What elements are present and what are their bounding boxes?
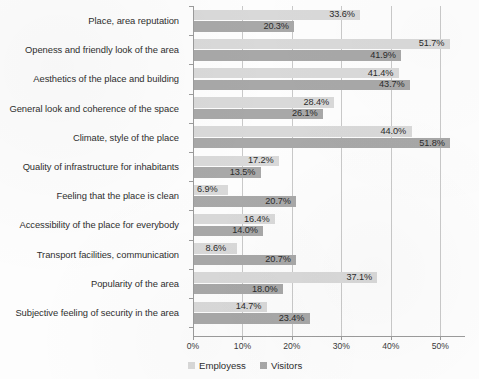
category-label: Transport facilities, communication <box>0 240 186 269</box>
bar-value-label: 51.8% <box>419 138 445 148</box>
bar-value-label: 28.4% <box>303 97 329 107</box>
legend-swatch-icon <box>260 362 267 369</box>
value-tick-label: 0% <box>187 341 199 351</box>
bar-value-label: 17.2% <box>248 155 274 165</box>
category-label: Openess and friendly look of the area <box>0 35 186 64</box>
bar-value-label: 16.4% <box>244 214 270 224</box>
value-tick-label: 40% <box>382 341 399 351</box>
horizontal-bar-chart: Place, area reputationOpeness and friend… <box>0 0 479 379</box>
category-label: Quality of infrastructure for inhabitant… <box>0 152 186 181</box>
bar-value-label: 18.0% <box>252 284 278 294</box>
bar-group: 17.2%13.5% <box>194 152 465 181</box>
category-label: General look and coherence of the space <box>0 94 186 123</box>
legend-item-employess[interactable]: Employess <box>188 360 246 371</box>
category-tick <box>189 35 193 36</box>
legend-item-visitors[interactable]: Visitors <box>260 360 302 371</box>
bar-visitors <box>194 138 450 148</box>
bar-group: 41.4%43.7% <box>194 64 465 93</box>
category-tick <box>189 327 193 328</box>
value-tick <box>292 336 293 340</box>
bar-group: 37.1%18.0% <box>194 269 465 298</box>
value-tick <box>242 336 243 340</box>
value-tick <box>341 336 342 340</box>
category-tick <box>189 298 193 299</box>
category-tick <box>189 94 193 95</box>
bar-value-label: 41.9% <box>370 50 396 60</box>
bar-group: 14.7%23.4% <box>194 298 465 327</box>
value-tick-label: 30% <box>333 341 350 351</box>
bar-employess <box>194 126 412 136</box>
bar-value-label: 51.7% <box>419 38 445 48</box>
category-label: Popularity of the area <box>0 269 186 298</box>
chart-legend: EmployessVisitors <box>188 360 302 371</box>
category-tick <box>189 6 193 7</box>
category-label: Place, area reputation <box>0 6 186 35</box>
legend-label: Visitors <box>271 360 302 371</box>
bar-value-label: 14.0% <box>232 225 258 235</box>
value-tick-label: 10% <box>234 341 251 351</box>
category-tick <box>189 64 193 65</box>
category-label: Aesthetics of the place and building <box>0 64 186 93</box>
bar-value-label: 26.1% <box>292 108 318 118</box>
value-tick <box>193 336 194 340</box>
bar-value-label: 6.9% <box>197 184 218 194</box>
bar-value-label: 20.3% <box>263 21 289 31</box>
category-tick <box>189 152 193 153</box>
value-tick-label: 50% <box>432 341 449 351</box>
category-label: Subjective feeling of security in the ar… <box>0 298 186 327</box>
bar-group: 6.9%20.7% <box>194 181 465 210</box>
bar-employess <box>194 39 450 49</box>
value-axis-line <box>193 336 465 337</box>
bar-group: 16.4%14.0% <box>194 210 465 239</box>
bar-visitors <box>194 80 410 90</box>
bar-value-label: 13.5% <box>230 167 256 177</box>
bar-value-label: 20.7% <box>265 196 291 206</box>
category-tick <box>189 123 193 124</box>
bar-value-label: 8.6% <box>206 243 227 253</box>
bar-value-label: 41.4% <box>368 68 394 78</box>
category-label: Accessibility of the place for everybody <box>0 210 186 239</box>
category-tick <box>189 181 193 182</box>
bar-value-label: 20.7% <box>265 254 291 264</box>
category-tick <box>189 269 193 270</box>
value-tick-label: 20% <box>283 341 300 351</box>
bar-value-label: 43.7% <box>379 79 405 89</box>
bar-group: 44.0%51.8% <box>194 123 465 152</box>
bar-value-label: 33.6% <box>329 9 355 19</box>
category-axis-labels: Place, area reputationOpeness and friend… <box>0 6 186 327</box>
bar-value-label: 14.7% <box>236 301 262 311</box>
legend-swatch-icon <box>188 362 195 369</box>
bar-group: 51.7%41.9% <box>194 35 465 64</box>
bar-group: 8.6%20.7% <box>194 240 465 269</box>
bar-value-label: 37.1% <box>346 272 372 282</box>
bar-value-label: 44.0% <box>381 126 407 136</box>
value-tick <box>391 336 392 340</box>
value-axis: 0%10%20%30%40%50% <box>193 336 465 354</box>
value-tick <box>440 336 441 340</box>
bar-value-label: 23.4% <box>279 313 305 323</box>
category-tick <box>189 210 193 211</box>
category-label: Climate, style of the place <box>0 123 186 152</box>
plot-area: 33.6%20.3%51.7%41.9%41.4%43.7%28.4%26.1%… <box>193 6 465 336</box>
bar-group: 28.4%26.1% <box>194 94 465 123</box>
legend-label: Employess <box>199 360 246 371</box>
bar-group: 33.6%20.3% <box>194 6 465 35</box>
category-label: Feeling that the place is clean <box>0 181 186 210</box>
category-tick <box>189 240 193 241</box>
